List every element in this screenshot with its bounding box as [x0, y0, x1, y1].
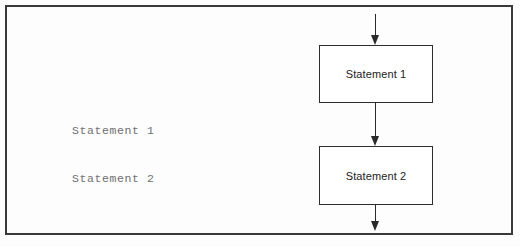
flowchart-node-label: Statement 2 [346, 170, 406, 182]
flowchart-node-label: Statement 1 [346, 68, 406, 80]
arrow-stem [375, 103, 376, 137]
figure-canvas: Statement 1 Statement 2 Statement 1 Stat… [0, 0, 520, 247]
code-line: Statement 2 [72, 171, 155, 187]
arrow-head [371, 136, 379, 146]
arrow-down-icon-exit [371, 205, 380, 231]
arrow-head [371, 35, 379, 45]
arrow-head [371, 221, 379, 231]
code-line: Statement 1 [72, 123, 155, 139]
arrow-stem [375, 205, 376, 222]
flowchart-node-statement-1: Statement 1 [319, 45, 433, 103]
arrow-stem [375, 14, 376, 36]
code-listing: Statement 1 Statement 2 [72, 91, 155, 219]
arrow-down-icon-between-nodes [371, 103, 380, 146]
arrow-down-icon-entry [371, 14, 380, 45]
flowchart-node-statement-2: Statement 2 [319, 146, 433, 205]
figure-frame: Statement 1 Statement 2 Statement 1 Stat… [5, 5, 513, 235]
